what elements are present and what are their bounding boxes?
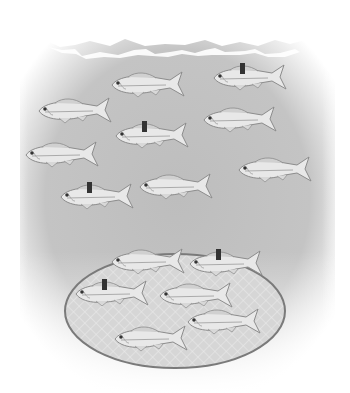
fish-tag-icon <box>102 279 107 290</box>
fish-tag-icon <box>87 182 92 193</box>
fish-population-scene <box>0 0 350 393</box>
net-sample <box>65 254 285 368</box>
fish-tag-icon <box>240 63 245 74</box>
fish-tag-icon <box>142 121 147 132</box>
mark-recapture-illustration <box>0 0 350 393</box>
fish-tag-icon <box>216 249 221 260</box>
